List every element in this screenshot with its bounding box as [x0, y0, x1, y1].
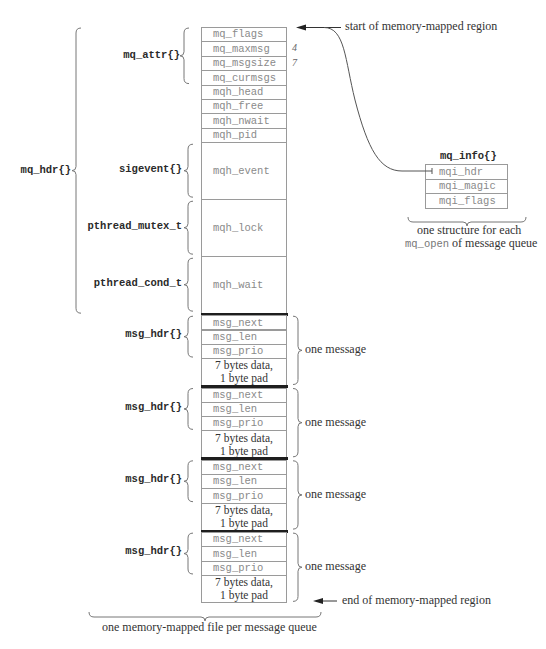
msg-hdr-brace	[184, 389, 193, 430]
mq-info-field-mqi-hdr: mqi_hdr	[425, 164, 508, 180]
mq-hdr-label: mq_hdr{}	[21, 164, 71, 176]
one-message-brace	[293, 461, 302, 529]
header-field-mq-msgsize: mq_msgsize	[201, 56, 287, 71]
message-field-msg-next: msg_next	[201, 532, 287, 547]
end-arrow-head	[313, 598, 323, 604]
type-brace	[184, 201, 193, 254]
one-message-brace	[293, 533, 302, 601]
header-field-mq-maxmsg: mq_maxmsg	[201, 41, 287, 56]
message-data: 7 bytes data, 1 byte pad	[201, 358, 287, 386]
one-message-brace	[293, 316, 302, 384]
msg-hdr-brace	[184, 316, 193, 357]
header-field-mq-curmsgs: mq_curmsgs	[201, 70, 287, 85]
end-of-region-label: end of memory-mapped region	[342, 593, 491, 608]
header-field-mqh-pid: mqh_pid	[201, 128, 287, 143]
field-value-annotation: 7	[292, 57, 297, 68]
type-brace	[184, 144, 193, 197]
mq-info-field-mqi-flags: mqi_flags	[425, 193, 508, 209]
message-field-msg-next: msg_next	[201, 388, 287, 403]
memory-mapped-queue-diagram: mq_flagsmq_maxmsg4mq_msgsize7mq_curmsgsm…	[0, 0, 546, 649]
header-field-mqh-free: mqh_free	[201, 99, 287, 114]
message-data: 7 bytes data, 1 byte pad	[201, 575, 287, 603]
header-field-mqh-event: mqh_event	[201, 142, 287, 200]
message-data: 7 bytes data, 1 byte pad	[201, 503, 287, 531]
message-field-msg-prio: msg_prio	[201, 344, 287, 359]
field-value-annotation: 4	[292, 42, 297, 53]
message-field-msg-next: msg_next	[201, 315, 287, 330]
start-arrow-head	[296, 25, 306, 31]
header-field-mqh-head: mqh_head	[201, 85, 287, 100]
header-field-mqh-wait: mqh_wait	[201, 256, 287, 314]
msg-hdr-label: msg_hdr{}	[125, 545, 182, 557]
message-field-msg-len: msg_len	[201, 474, 287, 489]
mq-info-caption-line2: mq_open of message queue	[405, 236, 537, 251]
mq-attr-brace	[180, 28, 189, 84]
type-label: pthread_mutex_t	[87, 220, 182, 232]
message-field-msg-len: msg_len	[201, 402, 287, 417]
message-field-msg-next: msg_next	[201, 460, 287, 475]
mq-info-title: mq_info{}	[440, 150, 497, 162]
msg-hdr-brace	[184, 461, 193, 502]
header-field-mqh-nwait: mqh_nwait	[201, 113, 287, 128]
msg-hdr-label: msg_hdr{}	[125, 473, 182, 485]
message-field-msg-prio: msg_prio	[201, 416, 287, 431]
mq-hdr-brace	[72, 28, 81, 313]
one-message-label: one message	[305, 487, 366, 502]
mq-attr-label: mq_attr{}	[123, 49, 180, 61]
message-field-msg-len: msg_len	[201, 330, 287, 345]
mq-info-caption-rest: of message queue	[449, 236, 537, 250]
one-file-per-queue-label: one memory-mapped file per message queue	[102, 620, 317, 635]
message-field-msg-len: msg_len	[201, 546, 287, 561]
type-brace	[184, 258, 193, 311]
message-field-msg-prio: msg_prio	[201, 561, 287, 576]
mq-open-code: mq_open	[405, 238, 449, 250]
msg-hdr-label: msg_hdr{}	[125, 401, 182, 413]
header-field-mq-flags: mq_flags	[201, 27, 287, 42]
one-message-label: one message	[305, 342, 366, 357]
mqi-hdr-pointer-curve	[324, 28, 432, 172]
msg-hdr-label: msg_hdr{}	[125, 328, 182, 340]
start-of-region-label: start of memory-mapped region	[345, 19, 497, 34]
one-message-label: one message	[305, 415, 366, 430]
message-field-msg-prio: msg_prio	[201, 488, 287, 503]
one-message-label: one message	[305, 559, 366, 574]
message-data: 7 bytes data, 1 byte pad	[201, 430, 287, 458]
msg-hdr-brace	[184, 533, 193, 574]
type-label: pthread_cond_t	[94, 277, 182, 289]
header-field-mqh-lock: mqh_lock	[201, 199, 287, 257]
mq-info-field-mqi-magic: mqi_magic	[425, 179, 508, 195]
type-label: sigevent{}	[119, 163, 182, 175]
one-message-brace	[293, 389, 302, 457]
